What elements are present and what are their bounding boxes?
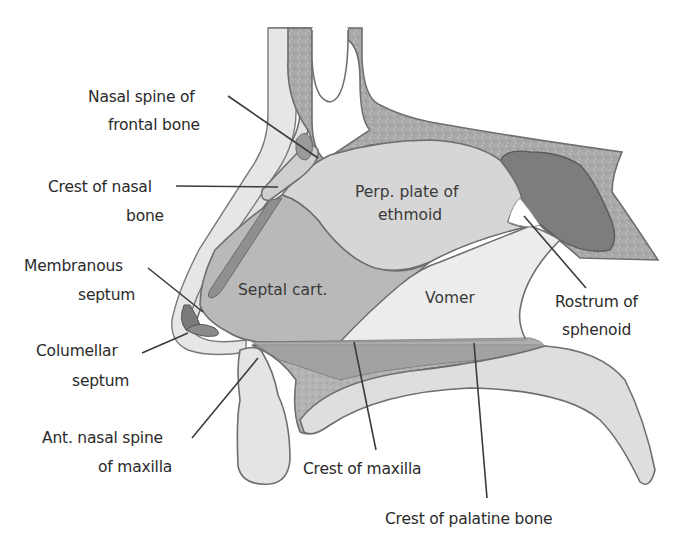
label-ant-nasal-spine-line1: Ant. nasal spine bbox=[42, 429, 163, 447]
label-columellar-septum-line2: septum bbox=[72, 372, 129, 390]
label-nasal-spine-frontal-line2: frontal bone bbox=[108, 116, 200, 134]
nasal-septum-diagram: Perp. plate of ethmoid Septal cart. Vome… bbox=[0, 0, 675, 543]
label-columellar-septum-line1: Columellar bbox=[36, 342, 118, 360]
label-ant-nasal-spine-line2: of maxilla bbox=[98, 458, 172, 476]
label-rostrum-sphenoid-line2: sphenoid bbox=[562, 321, 631, 339]
ant-nasal-spine-lobe bbox=[237, 347, 290, 484]
label-crest-nasal-bone-line1: Crest of nasal bbox=[48, 178, 152, 196]
label-membranous-septum-line1: Membranous bbox=[24, 257, 123, 275]
label-crest-nasal-bone-line2: bone bbox=[126, 207, 164, 225]
nasal-spine-frontal-wedge bbox=[296, 133, 312, 160]
label-crest-palatine: Crest of palatine bone bbox=[385, 510, 552, 528]
region-label-septal-cart: Septal cart. bbox=[238, 281, 327, 299]
region-label-perp-plate-line2: ethmoid bbox=[378, 206, 442, 224]
label-rostrum-sphenoid-line1: Rostrum of bbox=[555, 293, 639, 311]
region-label-vomer: Vomer bbox=[425, 289, 476, 307]
label-membranous-septum-line2: septum bbox=[78, 286, 135, 304]
leader-crest-nasal-bone bbox=[176, 186, 278, 187]
region-label-perp-plate-line1: Perp. plate of bbox=[355, 183, 459, 201]
label-crest-maxilla: Crest of maxilla bbox=[303, 460, 421, 478]
label-nasal-spine-frontal-line1: Nasal spine of bbox=[88, 88, 195, 106]
